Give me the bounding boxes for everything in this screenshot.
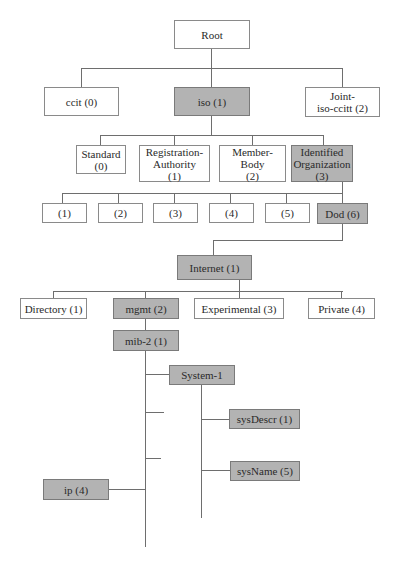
edge-mib2-trunk <box>145 350 146 547</box>
edge-root-down <box>211 48 212 68</box>
edge-stub-1 <box>145 412 164 413</box>
node-standard: Standard (0) <box>76 145 126 174</box>
edge-to-standard <box>100 135 101 145</box>
edge-to-dod <box>342 193 343 203</box>
node-sysname: sysName (5) <box>230 461 300 481</box>
edge-level2-bar <box>100 135 324 136</box>
node-dod: Dod (6) <box>317 203 368 224</box>
node-internet: Internet (1) <box>177 255 252 280</box>
edge-to-ccit <box>81 68 82 87</box>
edge-to-directory <box>53 291 54 298</box>
edge-dod-down <box>342 224 343 240</box>
node-experimental: Experimental (3) <box>194 298 284 319</box>
edge-mgmt-to-mib2 <box>145 318 146 330</box>
edge-to-internet <box>213 240 214 255</box>
edge-to-sysdescr <box>201 419 229 420</box>
edge-internet-down <box>239 279 240 291</box>
edge-level3-bar <box>62 193 343 194</box>
node-4: (4) <box>209 203 254 223</box>
edge-iso-down <box>211 115 212 135</box>
edge-to-experimental <box>239 291 240 298</box>
node-mgmt: mgmt (2) <box>113 298 179 319</box>
edge-to-n4 <box>230 193 231 203</box>
edge-to-identified <box>323 135 324 145</box>
edge-level5-bar <box>53 291 343 292</box>
node-ccit: ccit (0) <box>44 87 119 116</box>
node-2: (2) <box>98 203 143 223</box>
edge-system-trunk <box>201 384 202 518</box>
edge-to-iso <box>211 68 212 87</box>
edge-to-registration <box>174 135 175 145</box>
node-ip: ip (4) <box>43 479 109 500</box>
node-sysdescr: sysDescr (1) <box>229 409 300 429</box>
edge-to-system <box>145 374 169 375</box>
node-5: (5) <box>265 203 310 223</box>
node-joint-iso-ccitt: Joint- iso-ccitt (2) <box>305 87 380 117</box>
node-registration-authority: Registration- Authority (1) <box>139 145 210 182</box>
edge-dod-across <box>213 240 343 241</box>
node-1: (1) <box>42 203 87 223</box>
edge-level1-bar <box>81 68 343 69</box>
node-mib-2: mib-2 (1) <box>113 330 179 351</box>
edge-to-mgmt <box>145 291 146 298</box>
node-private: Private (4) <box>308 298 375 319</box>
edge-to-joint <box>342 68 343 87</box>
edge-identified-down <box>342 181 343 193</box>
node-3: (3) <box>153 203 198 223</box>
edge-to-n3 <box>174 193 175 203</box>
edge-to-n2 <box>118 193 119 203</box>
edge-to-private <box>341 291 342 298</box>
edge-to-member <box>252 135 253 145</box>
node-identified-organization: Identified Organization (3) <box>291 145 353 182</box>
node-member-body: Member- Body (2) <box>219 145 286 182</box>
edge-to-n5 <box>286 193 287 203</box>
edge-to-ip <box>108 489 145 490</box>
edge-stub-2 <box>145 458 161 459</box>
node-directory: Directory (1) <box>20 298 87 319</box>
node-iso: iso (1) <box>174 87 250 116</box>
node-system: System-1 <box>169 365 235 385</box>
edge-to-sysname <box>201 470 230 471</box>
edge-to-n1 <box>62 193 63 203</box>
node-root: Root <box>174 20 250 49</box>
